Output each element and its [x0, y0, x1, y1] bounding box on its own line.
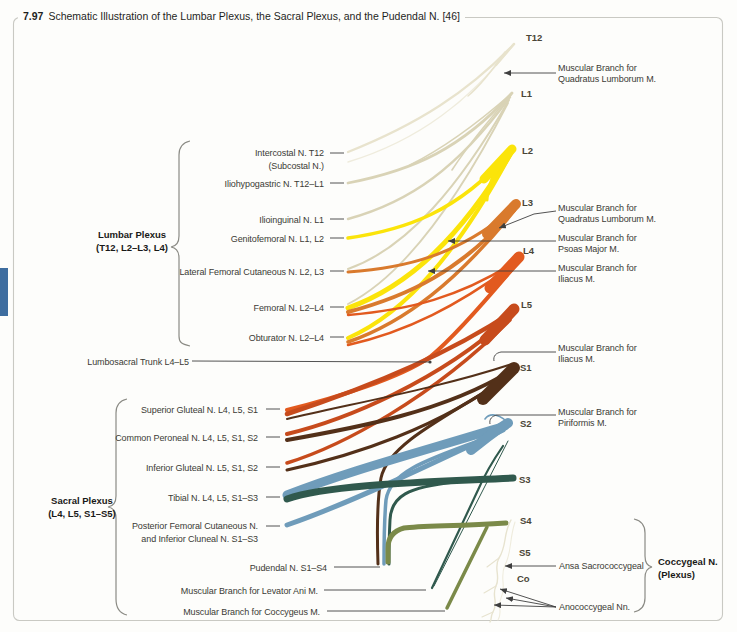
nerve-intercostal [348, 44, 514, 152]
level-label-s3: S3 [519, 474, 531, 485]
level-label-s4: S4 [520, 515, 532, 526]
label-pfc-line2: and Inferior Cluneal N. S1–S3 [132, 533, 258, 546]
figure-title: 7.97Schematic Illustration of the Lumbar… [18, 10, 465, 22]
iliacus1-line1: Muscular Branch for [558, 263, 637, 274]
label-ilioinguinal: Ilioinguinal N. L1 [259, 214, 324, 227]
label-intercostal: Intercostal N. T12 (Subcostal N.) [255, 147, 324, 172]
level-label-s5: S5 [519, 547, 531, 558]
label-inferior-gluteal: Inferior Gluteal N. L5, S1, S2 [146, 462, 258, 475]
label-levator-ani: Muscular Branch for Levator Ani M. [181, 585, 318, 598]
level-label-l3: L3 [522, 197, 533, 208]
level-label-l5: L5 [521, 299, 532, 310]
level-label-l4: L4 [523, 245, 534, 256]
coccygeal-plexus-name: Coccygeal N. [658, 556, 718, 569]
label-lumbosacral-trunk: Lumbosacral Trunk L4–L5 [87, 356, 189, 369]
label-tibial: Tibial N. L4, L5, S1–S3 [168, 492, 258, 505]
label-iliohypogastric: Iliohypogastric N. T12–L1 [225, 178, 324, 191]
ql1-line1: Muscular Branch for [558, 63, 656, 74]
chapter-tab [0, 268, 8, 316]
psoas-line2: Psoas Major M. [558, 244, 637, 255]
nerve-subcostal [348, 44, 514, 162]
ql1-line2: Quadratus Lumborum M. [558, 74, 656, 85]
root-l3 [487, 204, 516, 234]
label-obturator: Obturator N. L2–L4 [249, 332, 324, 345]
label-femoral: Femoral N. L2–L4 [254, 302, 324, 315]
piriformis-line1: Muscular Branch for [558, 407, 637, 418]
sacral-plexus-range: (L4, L5, S1–S5) [36, 508, 128, 521]
label-pudendal: Pudendal N. S1–S4 [250, 562, 327, 575]
label-coccygeus: Muscular Branch for Coccygeus M. [183, 606, 320, 619]
level-label-co: Co [517, 573, 530, 584]
ansa-sacrococcygeal-strand [490, 520, 511, 622]
plexus-diagram [0, 0, 737, 632]
root-t12 [496, 44, 514, 65]
figure-number: 7.97 [23, 10, 43, 22]
root-l4 [490, 257, 519, 288]
lumbar-label-dashes [330, 153, 344, 337]
coccygeal-plexus-range: (Plexus) [658, 569, 718, 582]
figure-title-text: Schematic Illustration of the Lumbar Ple… [48, 10, 459, 22]
level-label-s1: S1 [520, 362, 532, 373]
label-superior-gluteal: Superior Gluteal N. L4, L5, S1 [141, 404, 258, 417]
iliacus2-line2: Iliacus M. [558, 354, 637, 365]
lumbar-plexus-name: Lumbar Plexus [88, 229, 176, 242]
leader-dot [428, 360, 431, 363]
group-label-coccygeal-plexus: Coccygeal N. (Plexus) [658, 556, 718, 581]
spinal-roots [471, 149, 519, 450]
leader-lumbosacral-trunk [192, 361, 430, 362]
label-quadratus-lumborum-1: Muscular Branch for Quadratus Lumborum M… [558, 63, 656, 85]
label-pfc-line1: Posterior Femoral Cutaneous N. [132, 520, 258, 533]
leader-iliacus-2 [494, 352, 556, 361]
s3-fiber-pudendal [389, 482, 455, 564]
branch-coccygeus [447, 527, 487, 608]
label-lateral-femoral-cutaneous: Lateral Femoral Cutaneous N. L2, L3 [179, 266, 324, 279]
sacral-label-dashes [266, 409, 280, 526]
group-label-sacral-plexus: Sacral Plexus (L4, L5, S1–S5) [36, 495, 128, 520]
figure-page: 7.97Schematic Illustration of the Lumbar… [0, 0, 737, 632]
label-posterior-femoral-cutaneous: Posterior Femoral Cutaneous N. and Infer… [132, 520, 258, 545]
psoas-line1: Muscular Branch for [558, 233, 637, 244]
label-common-peroneal: Common Peroneal N. L4, L5, S1, S2 [115, 432, 258, 445]
iliacus2-line1: Muscular Branch for [558, 343, 637, 354]
iliacus1-line2: Iliacus M. [558, 274, 637, 285]
label-psoas-major: Muscular Branch for Psoas Major M. [558, 233, 637, 255]
label-ansa-sacrococcygeal: Ansa Sacrococcygeal [559, 561, 644, 572]
level-label-l2: L2 [522, 145, 533, 156]
figure-frame [14, 18, 723, 621]
level-label-s2: S2 [520, 418, 532, 429]
label-anococcygeal: Anococcygeal Nn. [559, 602, 630, 613]
group-label-lumbar-plexus: Lumbar Plexus (T12, L2–L3, L4) [88, 229, 176, 254]
sacral-plexus-name: Sacral Plexus [36, 495, 128, 508]
label-quadratus-lumborum-2: Muscular Branch for Quadratus Lumborum M… [558, 203, 656, 225]
label-iliacus-2: Muscular Branch for Iliacus M. [558, 343, 637, 365]
label-piriformis: Muscular Branch for Piriformis M. [558, 407, 637, 429]
label-intercostal-line2: (Subcostal N.) [255, 160, 324, 173]
label-iliacus-1: Muscular Branch for Iliacus M. [558, 263, 637, 285]
level-label-l1: L1 [521, 88, 532, 99]
label-intercostal-line1: Intercostal N. T12 [255, 147, 324, 160]
lumbar-plexus-range: (T12, L2–L3, L4) [88, 242, 176, 255]
piriformis-line2: Piriformis M. [558, 418, 637, 429]
level-label-t12: T12 [526, 32, 542, 43]
ql2-line1: Muscular Branch for [558, 203, 656, 214]
label-genitofemoral: Genitofemoral N. L1, L2 [231, 233, 324, 246]
ql2-line2: Quadratus Lumborum M. [558, 214, 656, 225]
